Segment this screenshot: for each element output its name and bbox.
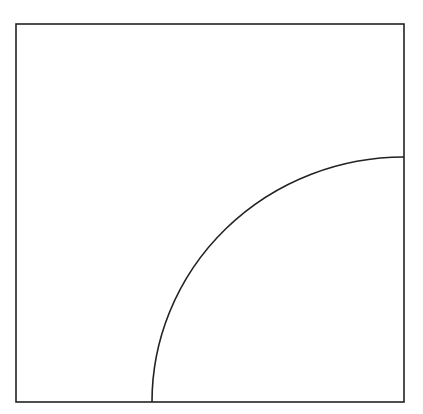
square-outline	[16, 24, 404, 402]
quarter-circle-in-square-diagram	[0, 0, 423, 414]
quarter-circle-arc	[152, 157, 404, 402]
